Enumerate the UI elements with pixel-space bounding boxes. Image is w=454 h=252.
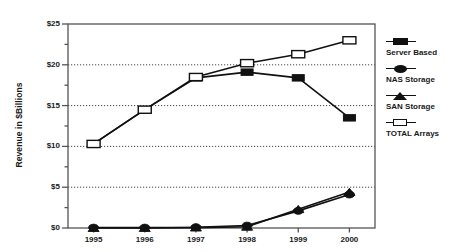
marker-total-arrays xyxy=(138,106,151,113)
legend-label: SAN Storage xyxy=(386,101,454,112)
legend-item-nas-storage[interactable]: NAS Storage xyxy=(386,63,454,85)
plot-background xyxy=(68,24,375,228)
triangle-marker-icon xyxy=(393,92,407,100)
marker-server-based xyxy=(343,115,355,121)
marker-server-based xyxy=(241,69,253,75)
circle-marker-icon xyxy=(394,65,407,73)
legend-item-san-storage[interactable]: SAN Storage xyxy=(386,90,454,112)
marker-total-arrays xyxy=(87,140,100,147)
square-marker-icon xyxy=(393,38,408,45)
marker-total-arrays xyxy=(189,73,202,80)
legend-marker xyxy=(386,117,416,128)
marker-total-arrays xyxy=(292,51,305,58)
legend-item-total-arrays[interactable]: TOTAL Arrays xyxy=(386,117,454,139)
legend-label: Server Based xyxy=(386,47,454,58)
legend-label: NAS Storage xyxy=(386,74,454,85)
legend-marker xyxy=(386,90,416,101)
marker-total-arrays xyxy=(241,60,254,67)
marker-server-based xyxy=(292,75,304,81)
legend-label: TOTAL Arrays xyxy=(386,128,454,139)
legend-marker xyxy=(386,36,416,47)
open-rectangle-marker-icon xyxy=(393,119,407,126)
legend-marker xyxy=(386,63,416,74)
chart-figure: Revenue in $Billions $0$5$10$15$20$25 19… xyxy=(0,0,454,252)
marker-total-arrays xyxy=(343,37,356,44)
legend-item-server-based[interactable]: Server Based xyxy=(386,36,454,58)
chart-legend: Server BasedNAS StorageSAN StorageTOTAL … xyxy=(386,36,454,144)
